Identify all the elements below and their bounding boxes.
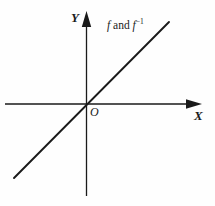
function-inverse-graph-figure: Y X O f and f−1 — [0, 0, 215, 206]
y-axis-label: Y — [71, 11, 79, 24]
identity-line-curve — [14, 22, 169, 178]
curve-label: f and f−1 — [107, 20, 144, 32]
y-axis-arrowhead-icon — [82, 11, 91, 27]
origin-label: O — [90, 106, 99, 118]
curve-label-inverse-exponent: −1 — [136, 17, 144, 26]
curve-label-and-text: and — [113, 19, 130, 31]
x-axis-label: X — [194, 109, 203, 122]
